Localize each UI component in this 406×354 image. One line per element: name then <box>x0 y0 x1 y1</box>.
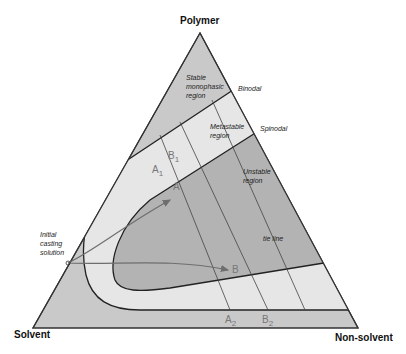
vertex-polymer-label: Polymer <box>180 15 220 26</box>
initial-label-2: casting <box>40 240 62 248</box>
stable-region-label-1: Stable <box>186 74 206 81</box>
binodal-label: Binodal <box>238 85 262 92</box>
stable-region-label-2: monophasic <box>186 83 224 91</box>
point-B-label: B <box>232 264 239 275</box>
metastable-region-label-1: Metastable <box>210 123 244 130</box>
ternary-diagram: Polymer Solvent Non-solvent Stable monop… <box>0 0 406 354</box>
vertex-solvent-label: Solvent <box>14 329 51 340</box>
spinodal-label: Spinodal <box>260 125 288 133</box>
point-A-label: A <box>173 181 180 192</box>
stable-region-label-3: region <box>186 92 206 100</box>
initial-label-1: Initial <box>40 231 57 238</box>
unstable-region-label-2: region <box>243 177 263 185</box>
unstable-region-label-1: Unstable <box>243 168 271 175</box>
metastable-region-label-2: region <box>210 132 230 140</box>
tie-line-label: tie line <box>263 235 283 242</box>
vertex-non-solvent-label: Non-solvent <box>335 332 393 343</box>
initial-label-3: solution <box>40 249 64 256</box>
